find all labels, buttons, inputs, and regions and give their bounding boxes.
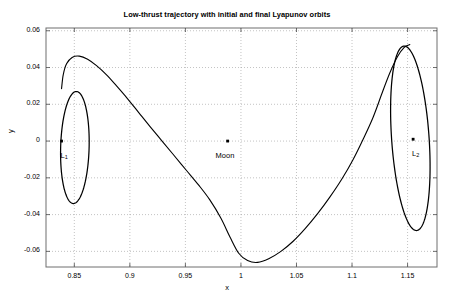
moon-point-label: Moon <box>216 151 235 160</box>
L1-point-marker <box>60 140 63 143</box>
grid-lines <box>46 28 437 267</box>
L1-point-label: L1 <box>61 151 68 160</box>
initial-lyapunov-orbit-L1 <box>61 92 90 204</box>
L2-point-subscript: 2 <box>416 152 419 158</box>
y-tick-label: 0.02 <box>8 99 40 106</box>
x-tick-label: 0.85 <box>57 272 91 279</box>
x-tick-label: 1.15 <box>391 272 425 279</box>
data-series <box>61 45 431 263</box>
y-tick-label: 0 <box>8 136 40 143</box>
tick-marks <box>46 28 437 267</box>
axes-frame <box>46 28 437 267</box>
L2-point-marker <box>412 138 415 141</box>
y-tick-label: -0.04 <box>8 210 40 217</box>
figure-canvas: Low-thrust trajectory with initial and f… <box>0 0 454 302</box>
final-lyapunov-orbit-L2 <box>391 46 430 230</box>
x-tick-label: 1.05 <box>279 272 313 279</box>
x-tick-label: 1.1 <box>335 272 369 279</box>
y-tick-label: -0.02 <box>8 173 40 180</box>
moon-point-marker <box>226 140 229 143</box>
x-axis-label: x <box>0 283 454 292</box>
y-axis-label: y <box>6 129 15 133</box>
y-tick-label: 0.06 <box>8 26 40 33</box>
x-tick-label: 0.95 <box>168 272 202 279</box>
low-thrust-transfer-trajectory <box>62 45 410 263</box>
y-tick-label: -0.06 <box>8 246 40 253</box>
x-tick-label: 0.9 <box>113 272 147 279</box>
L2-point-label: L2 <box>412 149 419 158</box>
y-tick-label: 0.04 <box>8 63 40 70</box>
L1-point-subscript: 1 <box>65 154 68 160</box>
x-tick-label: 1 <box>224 272 258 279</box>
